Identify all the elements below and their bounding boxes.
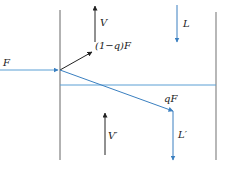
vapor-fraction-arrow bbox=[60, 52, 92, 70]
vapor-up-label: V bbox=[100, 17, 109, 28]
stage-diagram: F (1−q)F V L qF L′ V′ bbox=[0, 0, 233, 170]
feed-label: F bbox=[2, 57, 11, 68]
vapor-fraction-label: (1−q)F bbox=[95, 40, 132, 51]
liquid-down-label: L bbox=[182, 18, 190, 29]
vapor-below-label: V′ bbox=[108, 130, 118, 141]
liquid-fraction-label: qF bbox=[164, 93, 178, 104]
liquid-below-label: L′ bbox=[177, 129, 188, 140]
liquid-fraction-arrow bbox=[60, 70, 173, 111]
